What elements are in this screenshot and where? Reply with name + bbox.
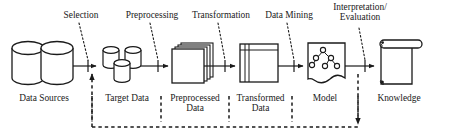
decision-tree-document-icon	[308, 43, 345, 83]
kdd-process-diagram: Selection Preprocessing Transformation D…	[0, 0, 450, 138]
step-label-data-mining: Data Mining	[254, 10, 324, 20]
step-label-transformation: Transformation	[180, 10, 262, 20]
step-label-interpretation-evaluation: Interpretation/ Evaluation	[320, 2, 400, 22]
stage-label-preprocessed-data: Preprocessed Data	[161, 93, 229, 113]
step-label-selection: Selection	[46, 10, 116, 20]
stage-label-knowledge: Knowledge	[362, 93, 436, 103]
stage-label-data-sources: Data Sources	[6, 93, 82, 103]
database-cylinders-icon	[12, 42, 73, 85]
stage-label-model: Model	[292, 93, 358, 103]
stage-label-target-data: Target Data	[93, 93, 161, 103]
table-document-icon	[240, 44, 278, 82]
stacked-sheets-icon	[172, 43, 213, 83]
small-cylinders-icon	[103, 47, 141, 83]
scroll-icon	[380, 40, 422, 84]
stage-label-transformed-data: Transformed Data	[229, 93, 292, 113]
